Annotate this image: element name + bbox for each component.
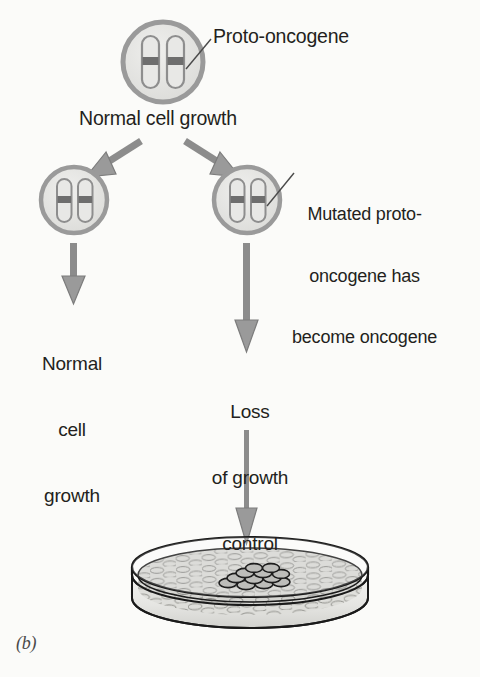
panel-letter: (b) bbox=[16, 633, 36, 654]
oncogene-figure: Proto-oncogene Normal cell growth Mutate… bbox=[0, 0, 480, 677]
gene-band-left-cell-b bbox=[79, 196, 93, 203]
label-left-outcome-line-1: Normal bbox=[30, 353, 114, 375]
label-left-outcome-line-2: cell bbox=[30, 419, 114, 441]
label-mutated-line-3: become oncogene bbox=[292, 327, 437, 348]
cell-right-mutated bbox=[214, 167, 280, 233]
label-loss-of-growth-control: Loss of growth control bbox=[196, 357, 304, 599]
label-normal-growth-outcome: Normal cell growth bbox=[30, 309, 114, 551]
arrow-right-to-outcome-icon bbox=[235, 243, 258, 352]
label-proto-oncogene: Proto-oncogene bbox=[213, 26, 349, 47]
gene-band-oncogene-a bbox=[231, 196, 245, 203]
label-mutated-line-2: oncogene has bbox=[292, 266, 437, 287]
arrow-left-to-outcome-icon bbox=[62, 243, 85, 304]
label-right-outcome-line-3: control bbox=[196, 533, 304, 555]
gene-band-proto-oncogene-right bbox=[168, 57, 184, 65]
cell-left-normal bbox=[41, 167, 107, 233]
gene-band-left-cell-a bbox=[58, 196, 72, 203]
label-left-outcome-line-3: growth bbox=[30, 485, 114, 507]
label-right-outcome-line-1: Loss bbox=[196, 401, 304, 423]
label-mutated-oncogene: Mutated proto- oncogene has become oncog… bbox=[292, 163, 437, 389]
gene-band-proto-oncogene-left bbox=[143, 57, 159, 65]
label-mutated-line-1: Mutated proto- bbox=[292, 204, 437, 225]
label-normal-cell-growth: Normal cell growth bbox=[79, 108, 237, 129]
gene-band-oncogene-b bbox=[252, 196, 266, 203]
label-right-outcome-line-2: of growth bbox=[196, 467, 304, 489]
